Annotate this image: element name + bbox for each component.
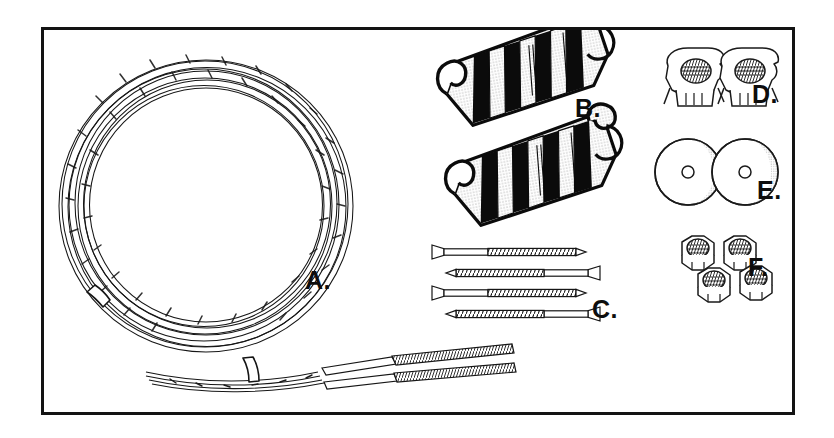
part-label-c: C. — [592, 297, 618, 322]
part-label-f: F. — [748, 255, 768, 280]
part-label-a: A. — [305, 268, 331, 293]
part-label-d: D. — [752, 82, 778, 107]
diagram-border-frame — [41, 27, 795, 415]
part-label-b: B. — [575, 96, 601, 121]
part-label-e: E. — [757, 178, 782, 203]
parts-diagram-figure: A. B. C. D. E. F. — [0, 0, 834, 438]
